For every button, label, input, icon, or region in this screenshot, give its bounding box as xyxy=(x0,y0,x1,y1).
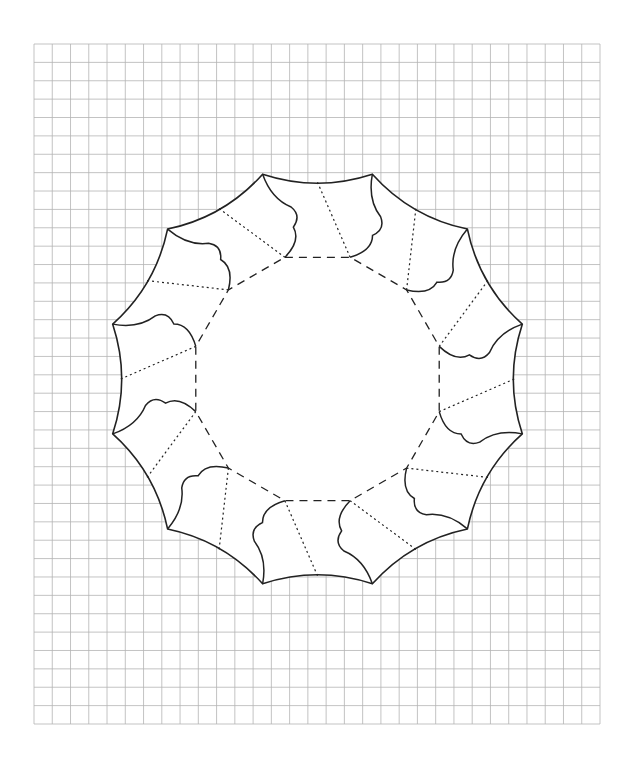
outer-cut-outline xyxy=(113,174,523,584)
template-diagram xyxy=(0,0,633,765)
outer-edge xyxy=(113,174,523,584)
